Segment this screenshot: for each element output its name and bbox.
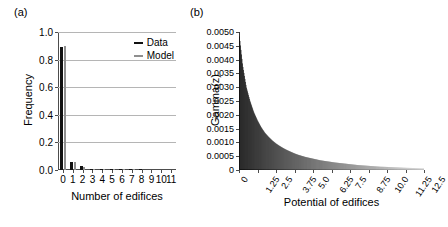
- gamma-distribution-curve: [239, 32, 424, 170]
- y-tick-mark: [236, 60, 239, 61]
- y-tick-label: 0.8: [39, 54, 53, 65]
- legend-item-model: Model: [134, 49, 174, 62]
- x-tick-mark: [132, 170, 133, 173]
- y-tick-mark: [236, 156, 239, 157]
- y-tick-label: 0.2: [39, 137, 53, 148]
- legend-a: Data Model: [134, 36, 174, 62]
- y-axis-title-b: Gamma(z): [209, 50, 221, 150]
- x-tick-label: 10.0: [392, 175, 410, 195]
- x-tick-mark: [406, 170, 407, 173]
- y-tick-mark: [55, 60, 58, 61]
- x-tick-label: 2: [80, 174, 86, 185]
- x-tick-mark: [313, 170, 314, 173]
- gridline: [58, 115, 176, 116]
- y-tick-mark: [236, 73, 239, 74]
- y-axis-title-a: Frequency: [22, 50, 34, 150]
- x-axis-title-b: Potential of edifices: [239, 196, 424, 208]
- y-tick-label: 0.4: [39, 109, 53, 120]
- gridline: [58, 32, 176, 33]
- x-tick-label: 11: [166, 174, 176, 185]
- gridline: [58, 142, 176, 143]
- x-tick-mark: [332, 170, 333, 173]
- bar-model: [123, 169, 125, 170]
- x-tick-mark: [276, 170, 277, 173]
- y-tick-mark: [236, 32, 239, 33]
- x-tick-label: 6: [119, 174, 125, 185]
- y-tick-label: 1.0: [39, 27, 53, 38]
- x-tick-mark: [151, 170, 152, 173]
- legend-label-data: Data: [147, 36, 168, 49]
- x-tick-label: 5.0: [316, 175, 331, 191]
- x-tick-mark: [171, 170, 172, 173]
- x-tick-mark: [63, 170, 64, 173]
- legend-swatch-data-icon: [134, 42, 143, 44]
- y-tick-label: 0.0050: [206, 27, 234, 37]
- x-tick-mark: [258, 170, 259, 173]
- x-tick-label: 7.5: [353, 175, 368, 191]
- bar-model: [74, 162, 76, 170]
- bar-model: [64, 46, 66, 170]
- x-tick-mark: [424, 170, 425, 173]
- y-tick-mark: [55, 170, 58, 171]
- x-tick-mark: [161, 170, 162, 173]
- x-axis-title-a: Number of edifices: [58, 190, 176, 202]
- y-tick-mark: [236, 142, 239, 143]
- x-tick-label: 9: [149, 174, 155, 185]
- bar-chart-plot-area: 0.00.20.40.60.81.0 01234567891011 Data M…: [58, 32, 176, 170]
- x-tick-label: 0: [239, 175, 250, 185]
- x-tick-label: 4: [99, 174, 105, 185]
- y-tick-mark: [236, 46, 239, 47]
- x-tick-label: 0: [60, 174, 66, 185]
- x-tick-mark: [295, 170, 296, 173]
- gridline: [58, 87, 176, 88]
- x-tick-label: 5: [109, 174, 115, 185]
- bar-model: [83, 167, 85, 170]
- y-tick-mark: [236, 87, 239, 88]
- x-tick-mark: [112, 170, 113, 173]
- y-tick-mark: [236, 101, 239, 102]
- x-axis-line-a: [58, 169, 176, 170]
- x-tick-label: 7: [129, 174, 135, 185]
- x-tick-label: 8.75: [374, 175, 392, 195]
- panel-a: (a) 0.00.20.40.60.81.0 01234567891011 Da…: [0, 0, 190, 227]
- x-tick-label: 12.5: [429, 175, 447, 195]
- x-tick-label: 2.5: [279, 175, 294, 191]
- y-tick-mark: [55, 115, 58, 116]
- x-tick-mark: [369, 170, 370, 173]
- bar-model: [93, 169, 95, 170]
- x-tick-label: 1: [70, 174, 76, 185]
- y-axis-line-a: [58, 32, 59, 170]
- panel-b-label: (b): [190, 6, 203, 18]
- y-tick-label: 0.0005: [206, 151, 234, 161]
- x-tick-mark: [387, 170, 388, 173]
- x-tick-mark: [102, 170, 103, 173]
- legend-item-data: Data: [134, 36, 174, 49]
- bar-model: [103, 169, 105, 170]
- x-tick-label: 3: [90, 174, 96, 185]
- y-tick-label: 0.6: [39, 82, 53, 93]
- x-tick-mark: [239, 170, 240, 173]
- x-tick-mark: [92, 170, 93, 173]
- x-tick-label: 8: [139, 174, 145, 185]
- y-tick-label: 0: [229, 165, 234, 175]
- legend-label-model: Model: [147, 49, 174, 62]
- y-tick-mark: [55, 87, 58, 88]
- legend-swatch-model-icon: [134, 55, 143, 57]
- x-tick-mark: [73, 170, 74, 173]
- x-tick-mark: [83, 170, 84, 173]
- y-tick-label: 0.0: [39, 165, 53, 176]
- bar-model: [133, 169, 135, 170]
- x-tick-mark: [122, 170, 123, 173]
- y-tick-mark: [55, 32, 58, 33]
- panel-b: (b) 00.00050.00100.00150.00200.00250.003…: [190, 0, 441, 227]
- bar-model: [113, 169, 115, 170]
- area-chart-plot-area: 00.00050.00100.00150.00200.00250.00300.0…: [239, 32, 424, 170]
- y-tick-mark: [236, 129, 239, 130]
- y-tick-mark: [55, 142, 58, 143]
- panel-a-label: (a): [14, 6, 27, 18]
- y-tick-mark: [236, 115, 239, 116]
- x-tick-mark: [142, 170, 143, 173]
- x-tick-mark: [350, 170, 351, 173]
